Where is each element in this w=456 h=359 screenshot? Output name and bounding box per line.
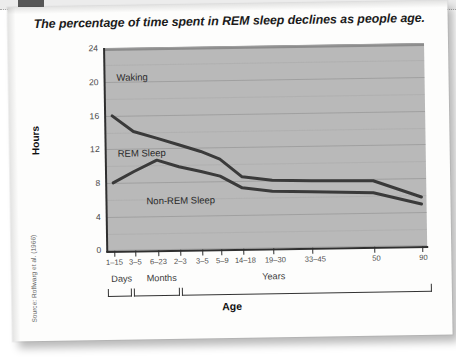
group-label-days: Days (111, 274, 132, 284)
group-bracket-years (182, 284, 432, 296)
figure-container: Waking REM Sleep Non-REM Sleep 24 20 16 … (7, 1, 452, 342)
x-tick-mark-7 (243, 249, 244, 255)
y-axis-title: Hours (29, 100, 41, 180)
x-tick-label-3: 6–23 (150, 257, 167, 266)
y-tick-12: 12 (74, 144, 100, 154)
y-tick-4: 4 (75, 212, 101, 222)
x-tick-mark-9 (312, 248, 313, 254)
x-tick-label-7: 14–18 (235, 256, 256, 265)
x-tick-label-9: 33–45 (305, 255, 326, 264)
x-tick-mark-4 (180, 250, 181, 256)
x-tick-label-8: 19–30 (265, 255, 286, 264)
x-tick-label-6: 5–9 (216, 256, 229, 265)
x-tick-mark-10 (374, 247, 375, 253)
x-tick-mark-1 (114, 251, 115, 257)
y-tick-8: 8 (74, 178, 100, 188)
region-label-waking: Waking (116, 71, 147, 82)
x-tick-label-2: 3–5 (129, 257, 142, 266)
x-tick-label-11: 90 (419, 253, 428, 262)
x-tick-mark-11 (422, 246, 423, 252)
x-tick-mark-6 (221, 249, 222, 255)
plot-area: Waking REM Sleep Non-REM Sleep (104, 43, 427, 251)
x-tick-mark-3 (158, 250, 159, 256)
y-tick-0: 0 (75, 245, 101, 255)
x-axis-title: Age (12, 297, 452, 316)
x-tick-mark-5 (202, 249, 203, 255)
x-tick-mark-8 (273, 248, 274, 254)
x-tick-label-10: 50 (372, 254, 381, 263)
group-label-months: Months (147, 273, 177, 283)
x-tick-label-5: 3–5 (196, 256, 209, 265)
x-tick-mark-2 (135, 250, 136, 256)
y-tick-16: 16 (73, 111, 99, 121)
group-bracket-days (108, 289, 132, 297)
page-corner-tab (18, 0, 44, 7)
region-label-non-rem-sleep: Non-REM Sleep (146, 194, 215, 206)
group-bracket-months (134, 288, 180, 297)
y-axis-tick-labels: 24 20 16 12 8 4 0 (70, 48, 101, 251)
scanned-page-sheet: The percentage of time spent in REM slee… (7, 1, 452, 342)
y-tick-24: 24 (72, 43, 98, 53)
region-label-rem-sleep: REM Sleep (118, 147, 166, 159)
x-tick-label-4: 2–3 (174, 257, 187, 266)
x-tick-label-1: 1–15 (106, 258, 123, 267)
y-tick-20: 20 (73, 77, 99, 87)
group-label-years: Years (262, 271, 285, 281)
